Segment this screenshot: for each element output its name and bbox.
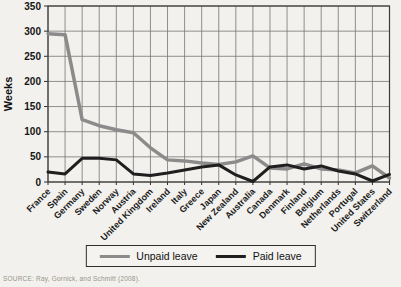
legend: Unpaid leave Paid leave [85,245,315,267]
y-tick-label: 100 [24,126,41,137]
y-tick-label: 150 [24,101,41,112]
legend-item-paid: Paid leave [216,250,302,262]
leave-weeks-chart-figure: 050100150200250300350FranceSpainGermanyS… [0,0,401,287]
source-note: SOURCE: Ray, Gornick, and Schmitt (2008)… [3,275,140,282]
unpaid-line-swatch [99,255,129,258]
y-axis-title: Weeks [2,77,14,112]
leave-weeks-line-chart: 050100150200250300350FranceSpainGermanyS… [0,0,401,287]
y-tick-label: 0 [35,177,41,188]
paid-line-swatch [216,255,246,258]
legend-item-unpaid: Unpaid leave [99,250,197,262]
y-tick-label: 350 [24,1,41,12]
y-tick-label: 250 [24,51,41,62]
y-tick-label: 300 [24,26,41,37]
y-tick-label: 200 [24,76,41,87]
legend-label-paid: Paid leave [253,250,302,262]
legend-label-unpaid: Unpaid leave [136,250,197,262]
y-tick-label: 50 [30,151,42,162]
